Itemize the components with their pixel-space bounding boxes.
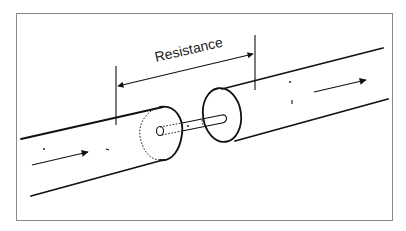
- resistance-diagram: Resistance: [0, 0, 406, 231]
